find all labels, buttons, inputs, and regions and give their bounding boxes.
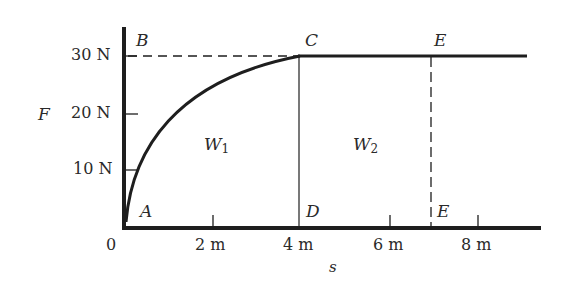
y-tick-label-30: 30 N [71, 47, 110, 63]
force-displacement-diagram: 30 N 20 N 10 N F 0 2 m 4 m 6 m 8 m s B C… [0, 0, 567, 287]
x-tick-label-6: 6 m [373, 237, 403, 253]
y-tick-label-20: 20 N [71, 105, 110, 121]
w2-base: W [353, 134, 370, 154]
w1-subscript: 1 [221, 142, 229, 156]
point-label-e-bottom: E [437, 203, 449, 220]
x-tick-label-0: 0 [106, 237, 116, 253]
x-axis-label: s [329, 260, 337, 275]
x-tick-label-8: 8 m [461, 237, 491, 253]
point-label-e-top: E [434, 32, 446, 49]
point-label-c: C [305, 32, 318, 49]
w1-base: W [204, 134, 221, 154]
w2-subscript: 2 [370, 142, 378, 156]
point-label-d: D [306, 203, 320, 220]
point-label-b: B [136, 32, 149, 49]
y-axis-label: F [38, 106, 50, 123]
region-label-w1: W1 [204, 136, 229, 155]
point-label-a: A [140, 203, 152, 220]
y-tick-label-10: 10 N [73, 161, 112, 177]
region-label-w2: W2 [353, 136, 378, 155]
x-tick-label-2: 2 m [195, 237, 225, 253]
x-tick-label-4: 4 m [283, 237, 313, 253]
